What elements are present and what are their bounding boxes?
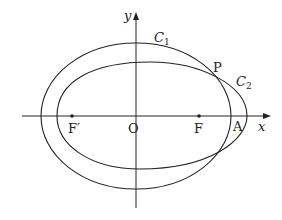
x-axis-label: x bbox=[258, 119, 266, 134]
focus-f-point bbox=[197, 114, 201, 118]
point-p-label: P bbox=[213, 60, 222, 75]
ellipse-diagram: y x O F′ F A P C1 C2 bbox=[0, 0, 282, 220]
y-axis-arrow-icon bbox=[133, 12, 139, 20]
point-f-label: F bbox=[194, 121, 203, 136]
point-a-label: A bbox=[232, 119, 243, 134]
point-f-prime-label: F′ bbox=[68, 121, 80, 136]
focus-f-prime-point bbox=[70, 114, 74, 118]
y-axis-label: y bbox=[123, 8, 132, 23]
curve-c1-label: C1 bbox=[154, 30, 170, 47]
origin-label: O bbox=[128, 121, 139, 136]
curve-c2-label: C2 bbox=[236, 74, 252, 91]
